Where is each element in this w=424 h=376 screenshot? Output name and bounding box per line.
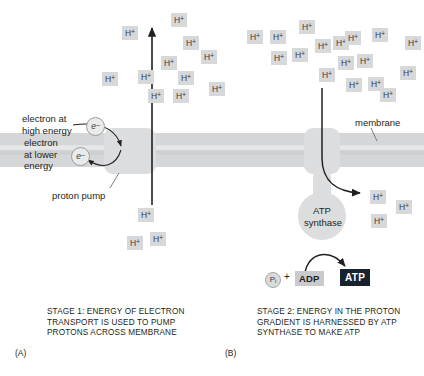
proton-charge: + [379, 192, 383, 199]
atp-synthase-label: ATP synthase [304, 205, 340, 228]
panel-b-letter: (B) [225, 348, 236, 358]
proton-charge: + [366, 56, 370, 63]
proton-chip: H+ [127, 236, 143, 250]
proton-chip: H+ [315, 39, 331, 53]
proton-chip: H+ [183, 36, 199, 50]
proton-charge: + [159, 234, 163, 241]
proton-charge: + [377, 79, 381, 86]
proton-pump-leader [110, 173, 119, 188]
proton-chip: H+ [138, 208, 154, 222]
membrane-label: membrane [355, 117, 400, 129]
proton-charge: + [301, 50, 305, 57]
proton-charge: + [218, 84, 222, 91]
proton-chip: H+ [171, 13, 187, 27]
proton-chip: H+ [122, 26, 138, 40]
panel-a-letter: (A) [15, 348, 26, 358]
panel-b-caption: STAGE 2: ENERGY IN THE PROTON GRADIENT I… [257, 307, 424, 339]
proton-chip: H+ [372, 28, 388, 42]
proton-charge: + [111, 74, 115, 81]
proton-charge: + [131, 28, 135, 35]
proton-charge: + [405, 202, 409, 209]
proton-chip: H+ [380, 88, 396, 102]
proton-chip: H+ [148, 89, 164, 103]
proton-charge: + [280, 53, 284, 60]
proton-chip: H+ [299, 20, 315, 34]
proton-charge: + [354, 33, 358, 40]
proton-charge: + [380, 216, 384, 223]
proton-chip: H+ [371, 214, 387, 228]
membrane-leader [371, 128, 377, 141]
proton-charge: + [409, 68, 413, 75]
pi-subscript: i [275, 278, 276, 284]
proton-charge: + [308, 22, 312, 29]
proton-chip: H+ [338, 56, 354, 70]
proton-charge: + [157, 91, 161, 98]
proton-chip: H+ [357, 54, 373, 68]
atp-box: ATP [340, 269, 370, 286]
proton-chip: H+ [292, 48, 308, 62]
electron-charge-high: – [96, 121, 100, 128]
proton-charge: + [324, 41, 328, 48]
proton-charge: + [389, 90, 393, 97]
proton-charge: + [355, 80, 359, 87]
proton-chip: H+ [400, 66, 416, 80]
proton-charge: + [180, 15, 184, 22]
proton-charge: + [256, 32, 260, 39]
proton-charge: + [279, 32, 283, 39]
diagram-canvas: electron at high energy e– electron at l… [0, 0, 424, 376]
proton-chip: H+ [201, 50, 217, 64]
proton-chip: H+ [319, 68, 335, 82]
proton-chip: H+ [209, 82, 225, 96]
electron-high-energy-label: electron at high energy [22, 113, 72, 136]
proton-charge: + [136, 238, 140, 245]
proton-chip: H+ [247, 30, 263, 44]
proton-chip: H+ [346, 78, 362, 92]
proton-charge: + [147, 210, 151, 217]
plus-sign: + [284, 271, 290, 282]
proton-pump-label: proton pump [52, 190, 105, 202]
proton-chip: H+ [102, 72, 118, 86]
inorganic-phosphate-chip: Pi [265, 272, 281, 288]
proton-charge: + [192, 38, 196, 45]
proton-charge: + [381, 30, 385, 37]
proton-chip: H+ [345, 31, 361, 45]
electron-low-energy-chip: e– [71, 147, 90, 166]
proton-charge: + [187, 73, 191, 80]
proton-chip: H+ [370, 190, 386, 204]
proton-chip: H+ [150, 232, 166, 246]
adp-box: ADP [295, 271, 324, 286]
proton-charge: + [182, 91, 186, 98]
proton-chip: H+ [271, 51, 287, 65]
proton-charge: + [210, 52, 214, 59]
proton-charge: + [328, 70, 332, 77]
proton-chip: H+ [161, 56, 177, 70]
electron-high-energy-chip: e– [86, 117, 105, 136]
proton-charge: + [170, 58, 174, 65]
adp-to-atp-arrow [305, 255, 345, 272]
proton-charge: + [147, 72, 151, 79]
proton-chip: H+ [173, 89, 189, 103]
proton-chip: H+ [138, 70, 154, 84]
proton-chip: H+ [405, 36, 421, 50]
proton-charge: + [414, 38, 418, 45]
electron-charge-low: – [81, 151, 85, 158]
electron-exit-arrow [88, 150, 121, 165]
panel-a-caption: STAGE 1: ENERGY OF ELECTRON TRANSPORT IS… [47, 307, 227, 339]
proton-charge: + [347, 58, 351, 65]
proton-chip: H+ [178, 71, 194, 85]
proton-chip: H+ [396, 200, 412, 214]
proton-chip: H+ [270, 30, 286, 44]
atp-synthase-proton-arrow [322, 158, 360, 193]
electron-low-energy-label: electron at lower energy [24, 137, 58, 172]
